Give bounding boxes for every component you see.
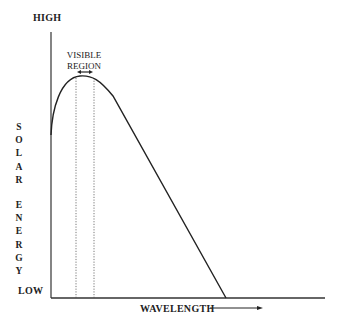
y-low-label: LOW xyxy=(18,285,43,296)
y-letter: A xyxy=(14,161,24,174)
y-letter: R xyxy=(14,239,24,252)
y-letter: R xyxy=(14,174,24,187)
y-letter: G xyxy=(14,252,24,265)
y-letter: E xyxy=(14,225,24,238)
y-letter: Y xyxy=(14,265,24,278)
visible-label-line2: REGION xyxy=(60,61,108,72)
wavelength-arrow xyxy=(210,306,263,310)
visible-label-line1: VISIBLE xyxy=(60,50,108,61)
chart-canvas xyxy=(0,0,340,324)
visible-region-label: VISIBLE REGION xyxy=(60,50,108,72)
y-letter: O xyxy=(14,134,24,147)
y-letter: S xyxy=(14,121,24,134)
solar-energy-curve xyxy=(51,76,226,298)
y-axis-label: S O L A R E N E R G Y xyxy=(14,121,24,278)
y-letter: E xyxy=(14,199,24,212)
x-axis-label: WAVELENGTH xyxy=(140,303,215,314)
y-high-label: HIGH xyxy=(33,12,61,23)
y-letter: N xyxy=(14,212,24,225)
y-letter: L xyxy=(14,147,24,160)
